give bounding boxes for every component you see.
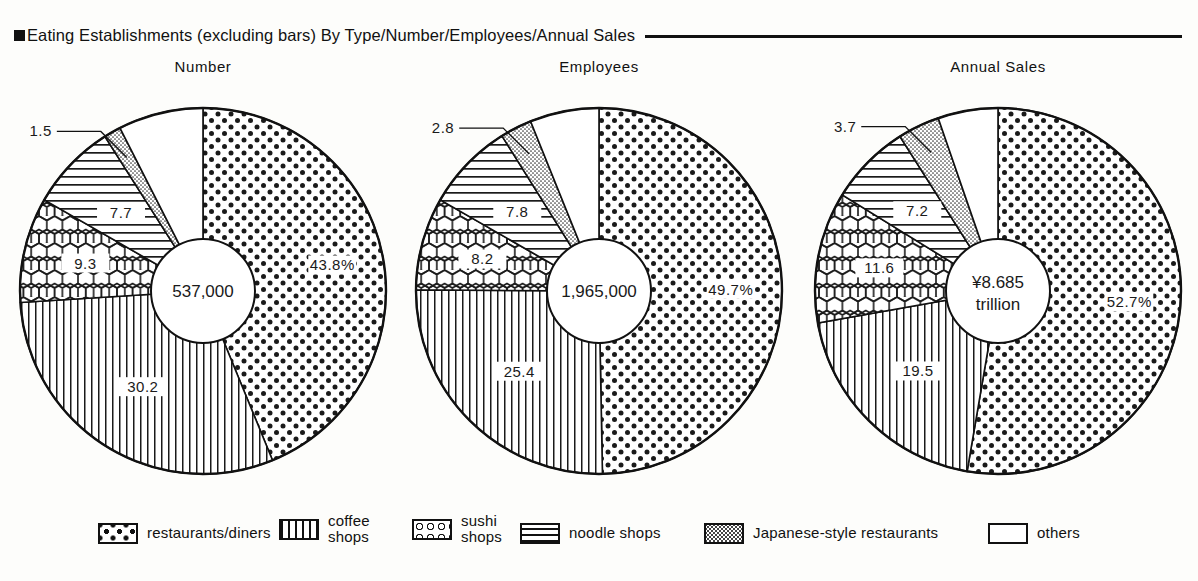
legend-item-restaurants-diners[interactable]: restaurants/diners xyxy=(98,523,271,544)
pie-slice-label: 7.7 xyxy=(110,204,132,221)
pie-slice-label: 8.2 xyxy=(471,250,493,267)
legend-item-sushi-shops[interactable]: sushi shops xyxy=(412,513,527,545)
legend-label-japanese-style-restaurants: Japanese-style restaurants xyxy=(753,525,938,541)
swatch-coarse-dots-icon xyxy=(98,523,138,544)
chart-legend: restaurants/diners coffee shops sushi sh… xyxy=(0,498,1198,568)
pie-employees: 1,965,00049.7%25.48.27.82.8 xyxy=(416,108,782,474)
legend-label-noodle-shops: noodle shops xyxy=(569,525,661,541)
pie-slice-label: 11.6 xyxy=(864,259,894,276)
legend-item-japanese-style-restaurants[interactable]: Japanese-style restaurants xyxy=(704,523,938,544)
swatch-blank-icon xyxy=(988,523,1028,544)
pie-leader-label: 1.5 xyxy=(29,122,51,139)
pie-charts-canvas: 537,00043.8%30.29.37.71.5 1,965,00049.7%… xyxy=(0,0,1198,500)
legend-label-sushi-shops: sushi shops xyxy=(461,513,527,545)
pie-slice-label: 7.8 xyxy=(506,203,528,220)
swatch-horizontal-lines-icon xyxy=(520,523,560,544)
pie-annual-sales: ¥8.685trillion52.7%19.511.67.23.7 xyxy=(815,108,1181,474)
swatch-honeycomb-icon xyxy=(412,519,452,540)
legend-item-others[interactable]: others xyxy=(988,523,1080,544)
pie-center-value: 1,965,000 xyxy=(561,282,637,301)
pie-leader-label: 3.7 xyxy=(834,118,856,135)
pie-slice-label: 19.5 xyxy=(902,362,933,379)
legend-item-noodle-shops[interactable]: noodle shops xyxy=(520,523,661,544)
pie-slice-label: 43.8% xyxy=(310,256,355,273)
swatch-vertical-lines-icon xyxy=(279,519,319,540)
pie-leader-label: 2.8 xyxy=(432,119,454,136)
chart-page: Eating Establishments (excluding bars) B… xyxy=(0,0,1198,581)
pie-slice-label: 7.2 xyxy=(906,202,928,219)
pie-center-unit: trillion xyxy=(976,295,1020,314)
pie-slice-label: 25.4 xyxy=(504,363,535,380)
pie-slice-label: 49.7% xyxy=(708,281,753,298)
pie-slice-label: 52.7% xyxy=(1107,293,1152,310)
pie-center-value: ¥8.685 xyxy=(971,273,1024,292)
legend-label-coffee-shops: coffee shops xyxy=(328,513,394,545)
legend-item-coffee-shops[interactable]: coffee shops xyxy=(279,513,394,545)
legend-label-others: others xyxy=(1037,525,1080,541)
swatch-fine-stipple-icon xyxy=(704,523,744,544)
legend-label-restaurants-diners: restaurants/diners xyxy=(147,525,271,541)
pie-slice-label: 30.2 xyxy=(127,378,158,395)
pie-center-value: 537,000 xyxy=(172,282,233,301)
pie-number: 537,00043.8%30.29.37.71.5 xyxy=(20,108,386,474)
pie-slice-label: 9.3 xyxy=(74,255,96,272)
